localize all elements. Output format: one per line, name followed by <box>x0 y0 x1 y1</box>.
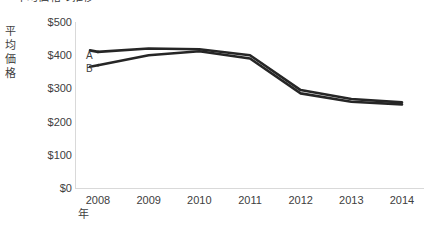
x-axis-line <box>75 188 424 189</box>
y-tick-label: $0 <box>26 183 72 194</box>
x-tick-label: 2013 <box>329 194 373 206</box>
y-axis-tick-labels: $500$400$300$200$100$0 <box>20 0 72 236</box>
y-tick-label: $500 <box>26 17 72 28</box>
y-tick-label: $300 <box>26 83 72 94</box>
y-axis-title: 平均価格 <box>2 24 18 80</box>
x-axis-tick-labels: 2008200920102011201220132014 <box>76 194 424 210</box>
y-tick-label: $400 <box>26 50 72 61</box>
x-tick-label: 2012 <box>279 194 323 206</box>
series-lines <box>76 22 424 188</box>
series-line-b <box>98 51 402 104</box>
plot-area <box>76 22 424 188</box>
series-label-b: B <box>86 64 93 74</box>
x-tick-label: 2011 <box>228 194 272 206</box>
y-tick-label: $200 <box>26 117 72 128</box>
y-tick-label: $100 <box>26 150 72 161</box>
x-axis-title: 年 <box>78 208 89 220</box>
x-tick-label: 2009 <box>127 194 171 206</box>
x-tick-label: 2014 <box>380 194 424 206</box>
chart-container: 平均価格の推移 平均価格 $500$400$300$200$100$0 A B … <box>0 0 429 236</box>
x-tick-label: 2008 <box>76 194 120 206</box>
x-tick-label: 2010 <box>177 194 221 206</box>
series-label-a: A <box>86 51 93 61</box>
